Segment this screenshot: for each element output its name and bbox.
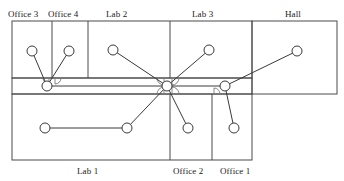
- sensor-nodes-layer: [27, 45, 302, 133]
- link-e-lab2-corrc: [113, 50, 167, 86]
- room-label-lab-1: Lab 1: [77, 166, 98, 176]
- wall-upper-block-outline: [12, 21, 252, 78]
- sensor-node-n-office4[interactable]: [64, 46, 74, 56]
- room-label-office-2: Office 2: [173, 166, 203, 176]
- link-e-lab3-corrc: [167, 50, 209, 86]
- sensor-node-n-lab2[interactable]: [108, 45, 118, 55]
- link-e-office4-corrw: [47, 51, 69, 86]
- room-label-office-1: Office 1: [220, 166, 250, 176]
- floor-plan-canvas: [0, 0, 344, 181]
- room-label-office-4: Office 4: [48, 9, 78, 19]
- room-label-office-3: Office 3: [8, 9, 38, 19]
- sensor-node-n-office1[interactable]: [229, 123, 239, 133]
- room-label-hall: Hall: [285, 9, 301, 19]
- sensor-node-n-lab1-w[interactable]: [40, 123, 50, 133]
- link-e-office3-corrw: [32, 51, 47, 86]
- room-label-lab-3: Lab 3: [192, 9, 213, 19]
- door-arc-door-office2: [172, 87, 179, 94]
- room-label-lab-2: Lab 2: [106, 9, 127, 19]
- wall-hall-outline: [252, 21, 337, 94]
- sensor-node-n-lab1-e[interactable]: [122, 123, 132, 133]
- sensor-node-n-office2[interactable]: [183, 123, 193, 133]
- link-e-corre-office1: [225, 86, 234, 128]
- link-e-corre-hall: [225, 51, 297, 86]
- link-e-corrc-lab1e: [127, 86, 167, 128]
- sensor-node-n-corr-e[interactable]: [220, 81, 230, 91]
- floor-plan-diagram: Office 3Office 4Lab 2Lab 3HallLab 1Offic…: [0, 0, 344, 181]
- door-arc-door-office4: [55, 78, 61, 84]
- sensor-node-n-hall[interactable]: [292, 46, 302, 56]
- sensor-node-n-lab3[interactable]: [204, 45, 214, 55]
- sensor-node-n-corr-w[interactable]: [42, 81, 52, 91]
- sensor-node-n-corr-c[interactable]: [162, 81, 172, 91]
- door-arc-door-office1: [214, 88, 220, 94]
- walls-layer: [12, 21, 337, 160]
- sensor-node-n-office3[interactable]: [27, 46, 37, 56]
